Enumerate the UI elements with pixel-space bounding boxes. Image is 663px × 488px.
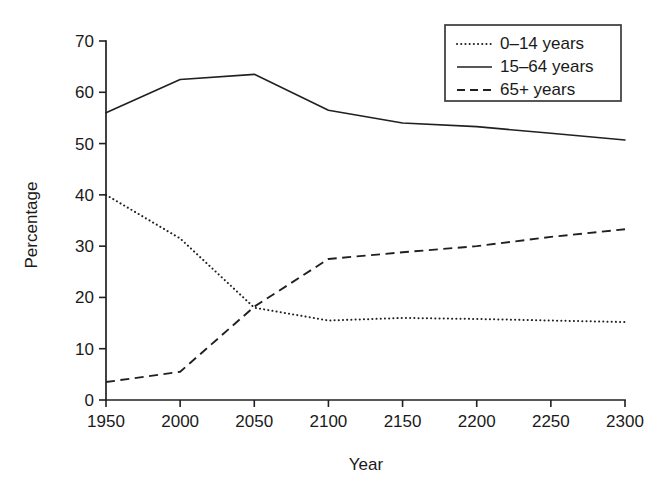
legend-label: 15–64 years [500,57,594,76]
x-tick-label: 2000 [161,412,199,431]
y-tick-label: 60 [75,83,94,102]
x-tick-label: 2200 [458,412,496,431]
x-tick-label: 2100 [310,412,348,431]
y-tick-label: 20 [75,288,94,307]
x-tick-label: 1950 [87,412,125,431]
chart-container: 010203040506070 195020002050210021502200… [0,0,663,488]
x-tick-label: 2250 [532,412,570,431]
y-tick-label: 30 [75,237,94,256]
population-age-structure-line-chart: 010203040506070 195020002050210021502200… [0,0,663,488]
y-tick-label: 10 [75,340,94,359]
y-tick-label: 50 [75,135,94,154]
x-tick-label: 2300 [606,412,644,431]
series-line-dotted [106,195,625,322]
x-tick-label: 2050 [235,412,273,431]
x-axis-title: Year [349,455,384,474]
legend: 0–14 years15–64 years65+ years [445,25,621,101]
x-tick-label: 2150 [384,412,422,431]
x-axis-ticks: 19502000205021002150220022502300 [87,400,644,431]
y-axis-title: Percentage [22,182,41,269]
legend-label: 65+ years [500,80,575,99]
y-tick-label: 0 [85,391,94,410]
series-line-dashed [106,229,625,382]
y-tick-label: 70 [75,32,94,51]
data-series-group [106,74,625,382]
legend-label: 0–14 years [500,34,584,53]
y-axis-ticks: 010203040506070 [75,32,106,410]
y-tick-label: 40 [75,186,94,205]
